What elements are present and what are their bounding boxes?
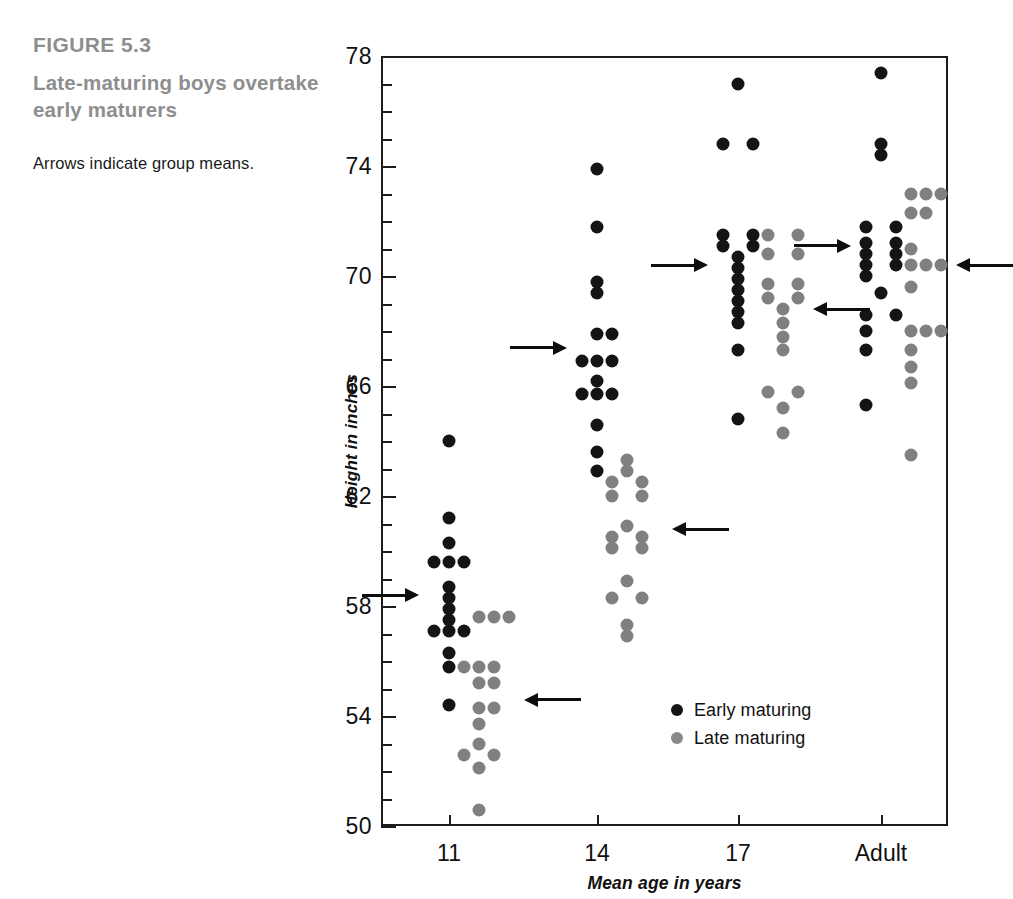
data-point-early xyxy=(717,239,730,252)
y-tick-minor xyxy=(381,414,392,416)
data-point-early xyxy=(732,316,745,329)
y-tick-minor xyxy=(381,194,392,196)
data-point-early xyxy=(591,446,604,459)
data-point-early xyxy=(443,512,456,525)
legend-swatch-late-icon xyxy=(671,732,683,744)
data-point-late xyxy=(473,718,486,731)
arrow-shaft xyxy=(967,264,1013,267)
data-point-late xyxy=(905,187,918,200)
data-point-late xyxy=(777,426,790,439)
data-point-late xyxy=(473,737,486,750)
data-point-late xyxy=(488,660,501,673)
x-tick xyxy=(881,815,883,826)
data-point-early xyxy=(860,220,873,233)
data-point-early xyxy=(860,308,873,321)
y-tick-minor xyxy=(381,469,392,471)
y-tick-minor xyxy=(381,84,392,86)
x-tick-label: Adult xyxy=(855,840,907,867)
data-point-late xyxy=(792,385,805,398)
y-tick-label: 50 xyxy=(345,813,372,840)
data-point-late xyxy=(905,325,918,338)
data-point-late xyxy=(905,206,918,219)
data-point-late xyxy=(792,292,805,305)
data-point-early xyxy=(443,660,456,673)
plot-frame xyxy=(381,56,948,826)
y-tick-minor xyxy=(381,661,392,663)
data-point-early xyxy=(458,556,471,569)
y-tick-minor xyxy=(381,139,392,141)
x-tick xyxy=(597,815,599,826)
data-point-early xyxy=(443,699,456,712)
y-axis-title: Height in inches xyxy=(342,374,362,509)
data-point-early xyxy=(732,413,745,426)
data-point-late xyxy=(762,228,775,241)
data-point-late xyxy=(777,316,790,329)
data-point-early xyxy=(875,286,888,299)
figure-title: Late-maturing boys overtake early mature… xyxy=(33,69,323,123)
y-tick-minor xyxy=(381,689,392,691)
data-point-late xyxy=(905,242,918,255)
y-tick-minor xyxy=(381,524,392,526)
y-tick-minor xyxy=(381,111,392,113)
data-point-early xyxy=(591,465,604,478)
data-point-early xyxy=(732,344,745,357)
data-point-late xyxy=(762,248,775,261)
data-point-early xyxy=(860,399,873,412)
y-tick-major xyxy=(381,56,396,58)
data-point-early xyxy=(875,149,888,162)
x-tick-label: 11 xyxy=(437,840,461,867)
x-axis-title: Mean age in years xyxy=(587,873,741,894)
data-point-early xyxy=(747,138,760,151)
x-tick xyxy=(449,815,451,826)
data-point-late xyxy=(473,701,486,714)
data-point-early xyxy=(860,344,873,357)
data-point-early xyxy=(606,388,619,401)
y-tick-major xyxy=(381,276,396,278)
data-point-early xyxy=(591,162,604,175)
data-point-late xyxy=(606,476,619,489)
y-tick-minor xyxy=(381,304,392,306)
data-point-late xyxy=(473,677,486,690)
data-point-late xyxy=(636,476,649,489)
legend-item-late: Late maturing xyxy=(671,724,811,752)
y-tick-minor xyxy=(381,579,392,581)
plot-area: 5054586266707478 111417Adult Height in i… xyxy=(381,56,948,826)
data-point-late xyxy=(636,591,649,604)
legend-swatch-early-icon xyxy=(671,704,683,716)
y-tick-label: 58 xyxy=(345,593,372,620)
data-point-early xyxy=(458,624,471,637)
x-tick xyxy=(738,815,740,826)
y-tick-major xyxy=(381,826,396,828)
data-point-early xyxy=(428,556,441,569)
data-point-late xyxy=(905,344,918,357)
figure-note: Arrows indicate group means. xyxy=(33,152,254,174)
data-point-early xyxy=(890,259,903,272)
data-point-early xyxy=(591,286,604,299)
y-tick-major xyxy=(381,496,396,498)
data-point-late xyxy=(636,542,649,555)
data-point-early xyxy=(443,624,456,637)
data-point-late xyxy=(488,701,501,714)
legend-item-early: Early maturing xyxy=(671,696,811,724)
data-point-early xyxy=(606,355,619,368)
y-tick-minor xyxy=(381,249,392,251)
data-point-late xyxy=(920,259,933,272)
data-point-early xyxy=(717,138,730,151)
data-point-late xyxy=(905,281,918,294)
data-point-late xyxy=(503,611,516,624)
data-point-early xyxy=(591,374,604,387)
data-point-early xyxy=(576,355,589,368)
y-tick-major xyxy=(381,716,396,718)
data-point-late xyxy=(606,591,619,604)
data-point-early xyxy=(428,624,441,637)
data-point-late xyxy=(488,748,501,761)
data-point-late xyxy=(905,377,918,390)
data-point-late xyxy=(920,187,933,200)
data-point-late xyxy=(777,402,790,415)
data-point-late xyxy=(905,360,918,373)
data-point-late xyxy=(762,385,775,398)
legend-label: Late maturing xyxy=(694,728,805,749)
y-tick-minor xyxy=(381,551,392,553)
data-point-late xyxy=(792,248,805,261)
